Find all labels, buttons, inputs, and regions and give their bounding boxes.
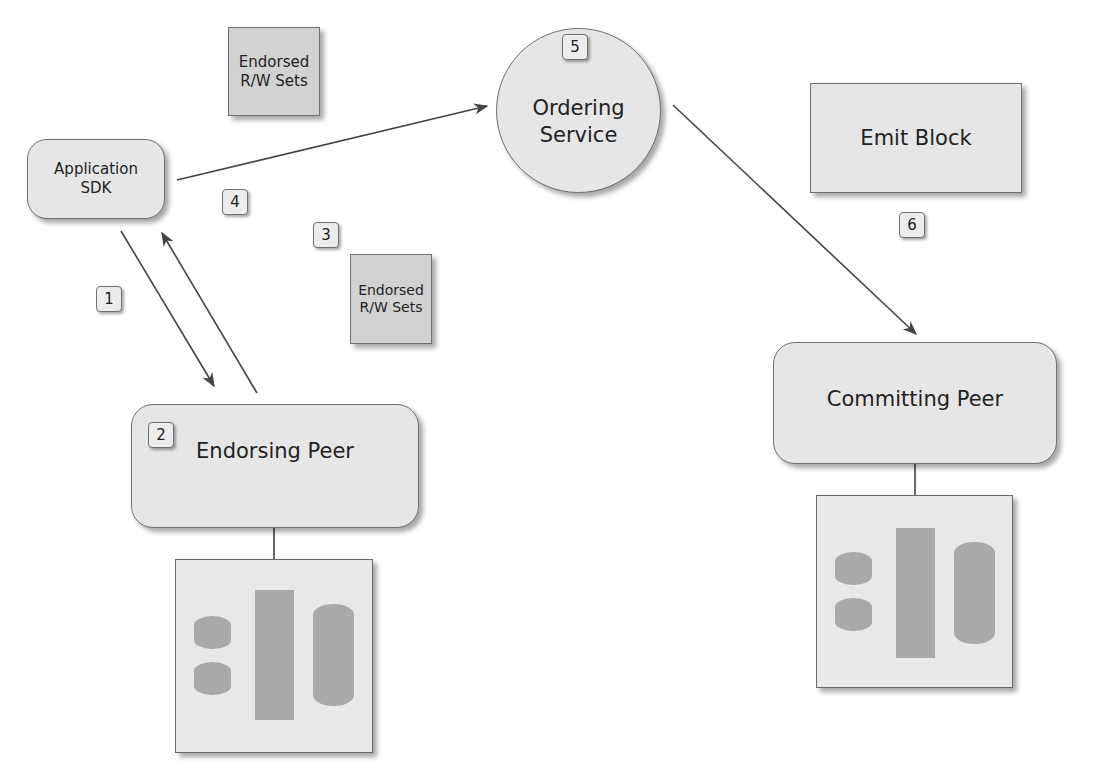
step-2-badge: 2 (148, 422, 174, 448)
endorsing-peer-label: Endorsing Peer (196, 439, 354, 463)
ordering-label: Ordering (532, 95, 624, 121)
edge-sdk-to-endorsing (121, 231, 214, 386)
step-3-number: 3 (321, 226, 331, 244)
endorsing-ledger-storage (175, 559, 373, 753)
step-5-badge: 5 (562, 34, 588, 60)
blockchain-bar-icon (255, 590, 294, 720)
endorsing-peer-node: Endorsing Peer (131, 404, 419, 528)
committing-peer-node: Committing Peer (773, 342, 1057, 464)
emit-block-node: Emit Block (810, 83, 1022, 193)
step-6-badge: 6 (899, 212, 925, 238)
step-4-badge: 4 (222, 189, 248, 215)
application-label: Application (54, 160, 138, 179)
service-label: Service (532, 122, 624, 148)
endorsed-label: Endorsed (239, 53, 309, 72)
large-database-icon (954, 542, 995, 644)
rw-sets-label: R/W Sets (358, 299, 424, 317)
step-1-number: 1 (104, 290, 114, 308)
blockchain-bar-icon (896, 528, 935, 658)
committing-peer-label: Committing Peer (827, 387, 1003, 411)
small-database-icon (194, 616, 231, 649)
small-database-icon (835, 598, 872, 631)
small-database-icon (835, 552, 872, 585)
step-3-badge: 3 (313, 222, 339, 248)
endorsed-rw-sets-top: Endorsed R/W Sets (228, 27, 320, 116)
step-6-number: 6 (907, 216, 917, 234)
small-database-icon (194, 662, 231, 695)
step-5-number: 5 (570, 38, 580, 56)
emit-block-label: Emit Block (860, 126, 971, 150)
step-2-number: 2 (156, 426, 166, 444)
edge-sdk-to-ordering (177, 106, 487, 180)
large-database-icon (313, 604, 354, 706)
rw-sets-label: R/W Sets (239, 72, 309, 91)
sdk-label: SDK (54, 179, 138, 198)
committing-ledger-storage (816, 495, 1013, 688)
application-sdk-node: Application SDK (27, 139, 165, 219)
edge-endorsing-to-sdk (162, 233, 257, 393)
endorsed-label: Endorsed (358, 282, 424, 300)
step-4-number: 4 (230, 193, 240, 211)
step-1-badge: 1 (96, 286, 122, 312)
endorsed-rw-sets-mid: Endorsed R/W Sets (350, 254, 432, 344)
